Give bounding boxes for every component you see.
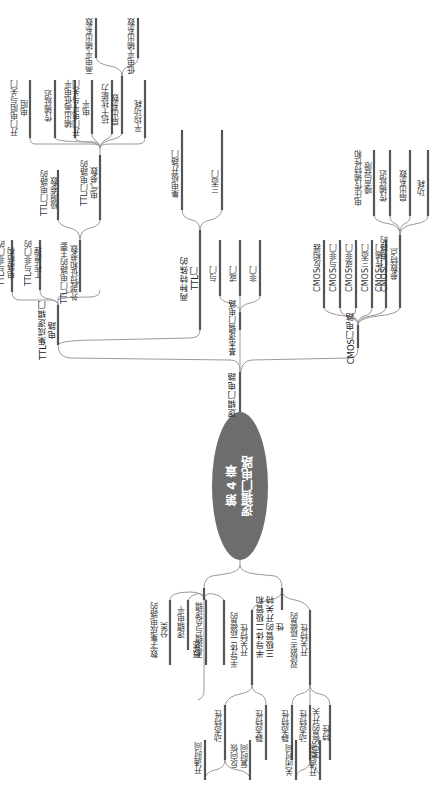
node-cmos-power: 功耗 bbox=[417, 180, 427, 196]
node-diode-switch: 半导体二极管的 开关特性 bbox=[230, 612, 250, 668]
node-cmos-vtc: 电压传输特性和 噪声容限 bbox=[354, 150, 374, 206]
node-ttl-electrical: TTL门电路的 电气参数 bbox=[80, 160, 100, 206]
node-ttl-elec-item-0: 开门电阻与关门 电阻 bbox=[10, 80, 30, 136]
node-bjt-turn-off: 关闭时间 bbox=[285, 744, 295, 776]
node-ttl: TTL集成逻辑门 电路 bbox=[38, 300, 58, 360]
chapter-title: 逻辑门电路 bbox=[241, 456, 255, 516]
node-logic-gates: 逻辑门电路 bbox=[228, 372, 238, 417]
node-cmos-fanout: 扇出系数 bbox=[399, 170, 409, 202]
node-ttl-principle: TTL与非门的 工作原理 bbox=[24, 240, 44, 286]
node-cmos: CMOS门电路 bbox=[346, 312, 356, 364]
node-bjt-dynamic: 动态特性 bbox=[299, 710, 309, 742]
node-cmos-nor: CMOS或非门 bbox=[345, 244, 355, 292]
node-diode-static: 静态特性 bbox=[255, 710, 265, 742]
node-pos-neg-logic: 正逻辑与负逻辑 bbox=[195, 602, 205, 658]
node-ttl-elec-item-3: 开门电平与关门 电平 bbox=[72, 80, 92, 136]
node-ttl-params: TTL门电路的主要 外部特征和参数 bbox=[60, 242, 80, 304]
node-tristate: 三态门 bbox=[211, 170, 221, 194]
node-logic-level: 逻辑电平 bbox=[177, 606, 187, 638]
node-ttl-structure: TTL与非门的 电路结构 bbox=[0, 240, 17, 286]
central-node: 第 4 章 逻辑门电路 bbox=[212, 412, 268, 560]
node-cmos-inverter: CMOS反相器 bbox=[313, 244, 323, 292]
node-ttl-elec-item-6: 平均功耗 bbox=[134, 100, 144, 132]
central-node-title: 第 4 章 逻辑门电路 bbox=[224, 456, 256, 516]
node-open-collector: 集电极开路门 bbox=[171, 150, 181, 198]
node-ttl-fanout-low: 低电平输出系数 bbox=[127, 18, 137, 74]
node-cmos-nand: CMOS与非门 bbox=[329, 244, 339, 292]
node-bjt-switch: 双极型三极管的 开关特性 bbox=[290, 612, 310, 668]
node-diode-dynamic: 动态特性 bbox=[214, 710, 224, 742]
node-ttl-elec-item-4: 抗干扰能力 bbox=[101, 84, 111, 124]
node-ttl-limit: TTL门电路的 极限参数 bbox=[40, 170, 60, 216]
node-cmos-delay: 传输延迟 bbox=[379, 170, 389, 202]
node-not-gate: 非门 bbox=[249, 266, 259, 282]
node-bjt-turn-on: 开通时间 bbox=[309, 744, 319, 776]
node-ttl-fanout-high: 高电平输出系数 bbox=[85, 18, 95, 74]
node-ttl-elec-item-1: 传输延迟 bbox=[44, 90, 54, 122]
node-cmos-tristate: CMOS三态门 bbox=[361, 244, 371, 292]
node-diode-reverse-recovery: 反向恢 复时间 bbox=[230, 744, 250, 768]
node-diode-turn-on: 开通时间 bbox=[194, 742, 204, 774]
node-ic-classification: 数字集成电路的 分类 bbox=[150, 602, 170, 658]
node-cmos-features: CMOS门电路的 参数特点 bbox=[380, 236, 400, 292]
node-bjt-static: 静态特性 bbox=[281, 710, 291, 742]
node-and-gate: 与门 bbox=[209, 266, 219, 282]
node-switch-characteristics: 半导体二极管和 三极管的开关特 性 bbox=[256, 595, 286, 658]
node-or-gate: 或门 bbox=[229, 266, 239, 282]
chapter-label: 第 4 章 bbox=[225, 466, 239, 507]
node-special-ttl: 两种特殊的 TTL门 bbox=[180, 256, 200, 301]
node-basic-gates: 基本逻辑门电路 bbox=[228, 300, 238, 356]
node-ttl-elec-item-5: 扇出系数 bbox=[111, 94, 121, 126]
